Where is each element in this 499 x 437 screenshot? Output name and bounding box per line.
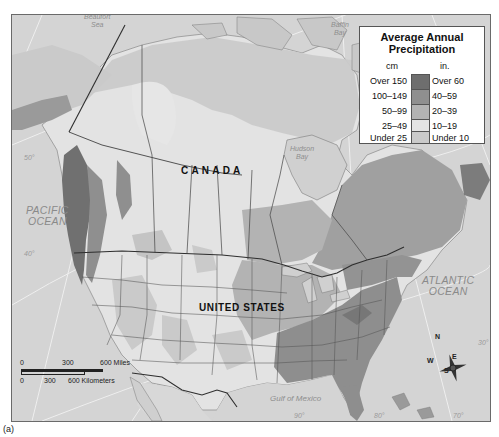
label-lon-70: 70° <box>453 412 464 419</box>
label-pacific-ocean: PACIFICOCEAN <box>26 205 69 227</box>
compass-w: W <box>427 357 434 364</box>
scale-miles-300: 300 <box>62 359 74 366</box>
label-united-states: UNITED STATES <box>199 303 285 313</box>
legend-unit-cm: cm <box>386 61 398 71</box>
label-hudson-bay: HudsonBay <box>290 145 314 161</box>
label-lon-90: 90° <box>294 412 305 419</box>
label-lon-80: 80° <box>374 412 385 419</box>
legend-swatch <box>411 89 430 104</box>
compass-n: N <box>435 333 440 340</box>
legend-unit-in: in. <box>440 61 450 71</box>
scale-km-300: 300 <box>44 377 56 384</box>
scale-km-0: 0 <box>20 377 24 384</box>
label-beaufort-sea: BeaufortSea <box>84 14 110 29</box>
compass-e: E <box>452 353 457 360</box>
legend-row-under-25: Under 25 Under 10 <box>360 131 484 144</box>
label-canada: CANADA <box>181 166 244 176</box>
label-lat-30: 30° <box>478 339 489 346</box>
scale-bar: 0 300 600 Miles 0 300 600 Kilometers <box>16 359 146 409</box>
legend-row-100-149: 100–149 40–59 <box>360 89 484 104</box>
label-baffin-bay: BaffinBay <box>331 21 349 37</box>
legend-row-50-99: 50–99 20–39 <box>360 104 484 119</box>
scale-miles-0: 0 <box>20 359 24 366</box>
scale-bar-km <box>21 372 85 375</box>
label-gulf-of-mexico: Gulf of Mexico <box>270 395 321 403</box>
label-atlantic-ocean: ATLANTICOCEAN <box>422 275 474 297</box>
compass-s: S <box>444 367 449 374</box>
scale-miles-600: 600 Miles <box>100 359 130 366</box>
label-lat-40: 40° <box>24 250 35 257</box>
legend-title: Average AnnualPrecipitation <box>360 32 484 55</box>
legend-swatch <box>411 131 430 144</box>
legend-swatch <box>411 104 430 119</box>
scale-km-600: 600 Kilometers <box>68 377 115 384</box>
legend-swatch <box>411 74 430 89</box>
legend-row-over-150: Over 150 Over 60 <box>360 74 484 89</box>
precipitation-legend: Average AnnualPrecipitation cm in. Over … <box>359 26 485 144</box>
figure-caption: (a) <box>3 424 14 434</box>
label-lat-50: 50° <box>24 154 35 161</box>
